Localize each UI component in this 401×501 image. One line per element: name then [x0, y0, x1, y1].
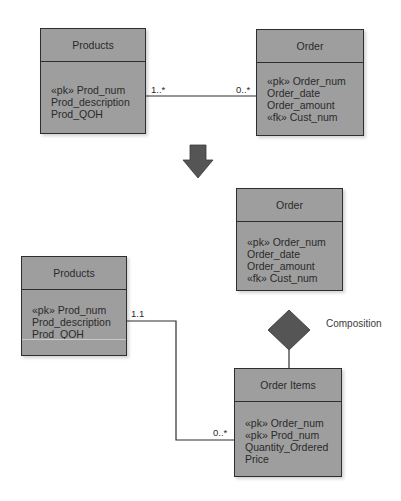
- attribute: «pk» Prod_num: [245, 429, 341, 441]
- attribute: «pk» Prod_num: [32, 304, 126, 316]
- entity-attributes: «pk» Prod_num Prod_description Prod_QOH: [22, 290, 126, 340]
- entity-attributes: «pk» Order_num «pk» Prod_num Quantity_Or…: [235, 402, 341, 465]
- entity-attributes: «pk» Order_num Order_date Order_amount «…: [237, 222, 342, 284]
- entity-products-bottom[interactable]: Products «pk» Prod_num Prod_description …: [21, 256, 127, 356]
- attribute: «fk» Cust_num: [247, 272, 342, 284]
- entity-title: Products: [41, 29, 145, 62]
- attribute: Prod_description: [51, 96, 145, 108]
- entity-attributes: «pk» Order_num Order_date Order_amount «…: [257, 63, 363, 123]
- attribute: Order_date: [267, 87, 363, 99]
- attribute: «pk» Order_num: [245, 417, 341, 429]
- down-arrow-icon: [183, 145, 213, 178]
- multiplicity-label: 1..*: [151, 84, 165, 95]
- attribute: Prod_QOH: [51, 108, 145, 120]
- multiplicity-label: 0..*: [213, 427, 227, 438]
- composition-diamond-icon: [268, 310, 310, 350]
- entity-products-top[interactable]: Products «pk» Prod_num Prod_description …: [40, 28, 146, 134]
- entity-order-bottom[interactable]: Order «pk» Order_num Order_date Order_am…: [236, 188, 343, 291]
- multiplicity-label: 0..*: [236, 84, 250, 95]
- entity-order-items[interactable]: Order Items «pk» Order_num «pk» Prod_num…: [234, 368, 342, 477]
- entity-title: Order Items: [235, 369, 341, 402]
- entity-attributes: «pk» Prod_num Prod_description Prod_QOH: [41, 62, 145, 120]
- faint-divider: [22, 339, 126, 340]
- entity-title: Order: [257, 30, 363, 63]
- attribute: «pk» Prod_num: [51, 84, 145, 96]
- association-line-bottom: [126, 321, 234, 440]
- attribute: «fk» Cust_num: [267, 111, 363, 123]
- attribute: «pk» Order_num: [267, 75, 363, 87]
- attribute: «pk» Order_num: [247, 236, 342, 248]
- entity-order-top[interactable]: Order «pk» Order_num Order_date Order_am…: [256, 29, 364, 136]
- attribute: Prod_description: [32, 316, 126, 328]
- entity-title: Order: [237, 189, 342, 222]
- multiplicity-label: 1.1: [131, 308, 144, 319]
- entity-title: Products: [22, 257, 126, 290]
- attribute: Quantity_Ordered: [245, 441, 341, 453]
- attribute: Price: [245, 453, 341, 465]
- attribute: Order_date: [247, 248, 342, 260]
- attribute: Order_amount: [247, 260, 342, 272]
- composition-label: Composition: [326, 318, 382, 329]
- attribute: Order_amount: [267, 99, 363, 111]
